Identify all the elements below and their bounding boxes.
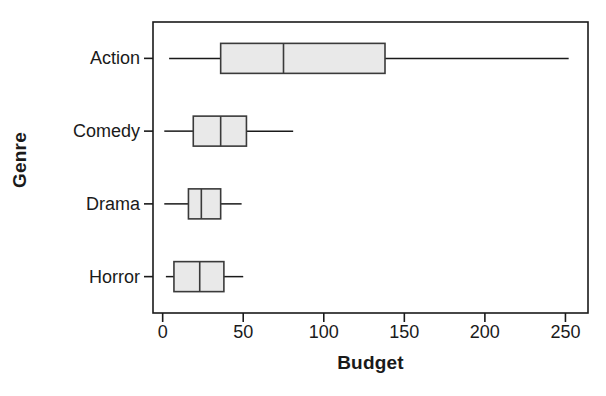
x-tick-labels: 050100150200250 [0,322,606,350]
x-axis-title: Budget [153,352,588,374]
boxplot-horror [166,262,243,292]
boxplot-chart: Genre ActionComedyDramaHorror 0501001502… [0,0,606,396]
box-iqr [174,262,224,292]
x-tick-label-200: 200 [470,322,500,342]
x-tick-label-250: 250 [550,322,580,342]
boxplot-drama [164,189,241,219]
boxplot-action [169,43,569,73]
box-iqr [193,116,246,146]
x-tick-label-100: 100 [309,322,339,342]
boxplot-comedy [164,116,293,146]
x-tick-label-0: 0 [158,322,168,342]
x-tick-label-50: 50 [233,322,253,342]
x-tick-label-150: 150 [389,322,419,342]
box-iqr [221,43,385,73]
box-iqr [188,189,220,219]
